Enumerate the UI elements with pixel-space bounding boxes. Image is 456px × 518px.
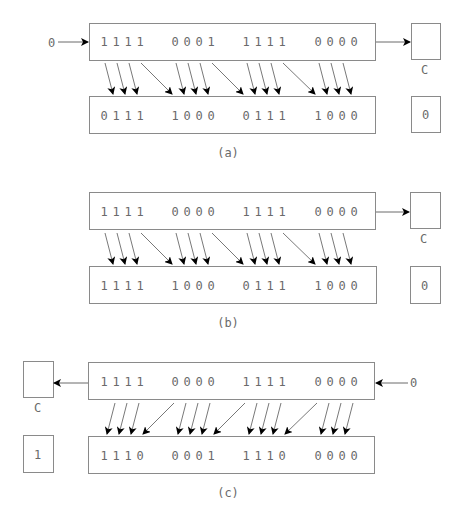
bit-shift-arrow — [188, 233, 196, 264]
bit-shift-arrow — [212, 233, 243, 264]
bit-shift-arrow — [261, 403, 269, 434]
bit-shift-arrow — [273, 403, 281, 434]
bit-shift-arrow — [247, 233, 255, 264]
bit-shift-arrow — [117, 233, 125, 264]
bit-shift-arrow — [143, 403, 174, 434]
bit-shift-arrow — [141, 233, 172, 264]
bit-shift-arrow — [190, 403, 198, 434]
bit-shift-arrow — [345, 403, 353, 434]
bit-shift-arrow — [285, 403, 317, 434]
bit-shift-arrow — [271, 63, 279, 94]
bit-shift-arrow — [176, 233, 184, 264]
bit-shift-arrow — [333, 403, 341, 434]
bit-shift-arrow — [202, 403, 210, 434]
bit-shift-arrow — [331, 63, 339, 94]
bit-shift-arrow — [321, 403, 329, 434]
bit-shift-arrow — [129, 63, 137, 94]
bit-shift-arrow — [131, 403, 139, 434]
bit-shift-arrow — [212, 63, 243, 94]
arrows-layer — [0, 0, 456, 518]
bit-shift-arrow — [178, 403, 186, 434]
bit-shift-arrow — [247, 63, 255, 94]
bit-shift-arrow — [119, 403, 127, 434]
bit-shift-arrow — [214, 403, 245, 434]
bit-shift-arrow — [200, 63, 208, 94]
bit-shift-arrow — [331, 233, 339, 264]
bit-shift-arrow — [200, 233, 208, 264]
bit-shift-arrow — [105, 233, 113, 264]
bit-shift-arrow — [343, 63, 351, 94]
bit-shift-arrow — [249, 403, 257, 434]
bit-shift-arrow — [319, 63, 327, 94]
bit-shift-arrow — [259, 63, 267, 94]
bit-shift-arrow — [343, 233, 351, 264]
bit-shift-arrow — [176, 63, 184, 94]
bit-shift-arrow — [188, 63, 196, 94]
bit-shift-arrow — [129, 233, 137, 264]
bit-shift-arrow — [117, 63, 125, 94]
bit-shift-arrow — [319, 233, 327, 264]
bit-shift-arrow — [259, 233, 267, 264]
bit-shift-arrow — [283, 63, 315, 94]
bit-shift-arrow — [141, 63, 172, 94]
bit-shift-arrow — [107, 403, 115, 434]
bit-shift-arrow — [283, 233, 315, 264]
bit-shift-arrow — [271, 233, 279, 264]
bit-shift-arrow — [105, 63, 113, 94]
